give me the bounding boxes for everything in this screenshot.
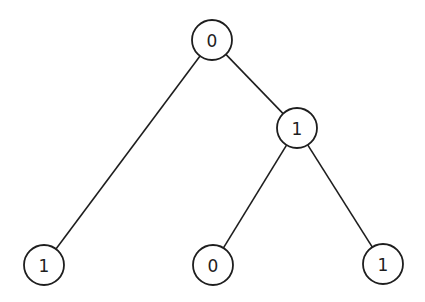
tree-node-right-leaf: 1 xyxy=(363,244,403,284)
edge-right-child-to-mid-leaf xyxy=(223,145,286,248)
tree-node-mid-leaf: 0 xyxy=(193,245,233,285)
node-label: 1 xyxy=(39,256,50,276)
tree-nodes: 01101 xyxy=(24,20,403,285)
edge-root-to-left-leaf xyxy=(56,56,200,249)
edge-right-child-to-right-leaf xyxy=(308,145,373,247)
tree-diagram: 01101 xyxy=(0,0,425,302)
node-label: 0 xyxy=(208,256,219,276)
node-label: 1 xyxy=(292,119,303,139)
edge-root-to-right-child xyxy=(226,54,283,113)
node-label: 0 xyxy=(207,31,218,51)
tree-node-left-leaf: 1 xyxy=(24,245,64,285)
tree-edges xyxy=(56,54,372,249)
tree-node-right-child: 1 xyxy=(277,108,317,148)
tree-node-root: 0 xyxy=(192,20,232,60)
node-label: 1 xyxy=(378,255,389,275)
